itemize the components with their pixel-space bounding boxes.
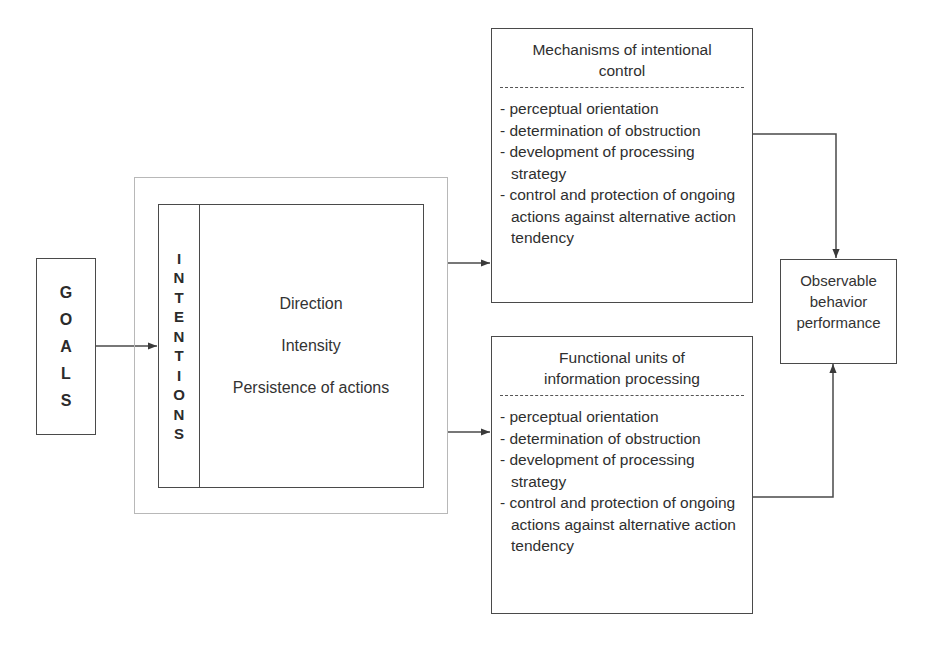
- intentions-letter: T: [174, 346, 183, 366]
- attribute-direction: Direction: [279, 294, 342, 314]
- list-item: - determination of obstruction: [500, 428, 746, 450]
- mechanisms-title-line: control: [500, 60, 744, 81]
- intentions-letter: I: [177, 366, 181, 386]
- dashed-divider: [500, 395, 744, 396]
- intentions-label-column: I N T E N T I O N S: [158, 204, 200, 488]
- list-item: - control and protection of ongoing acti…: [500, 492, 746, 557]
- list-item: - determination of obstruction: [500, 120, 746, 142]
- list-item: - perceptual orientation: [500, 406, 746, 428]
- outcome-title-line: behavior: [781, 291, 896, 312]
- list-item: - development of processing strategy: [500, 141, 746, 184]
- intentions-attributes: Direction Intensity Persistence of actio…: [199, 204, 423, 487]
- functional-units-title-line: Functional units of: [500, 347, 744, 368]
- functional-units-list: - perceptual orientation - determination…: [492, 402, 752, 557]
- functional-units-title-line: information processing: [500, 368, 744, 389]
- goals-letter: S: [61, 387, 72, 414]
- mechanisms-title-line: Mechanisms of intentional: [500, 39, 744, 60]
- list-item: - perceptual orientation: [500, 98, 746, 120]
- intentions-letter: I: [177, 249, 181, 269]
- outcome-box: Observable behavior performance: [780, 259, 897, 364]
- intentions-letter: T: [174, 288, 183, 308]
- goals-letter: G: [60, 279, 72, 306]
- attribute-intensity: Intensity: [281, 336, 341, 356]
- goals-letter: L: [61, 360, 71, 387]
- intentions-letter: N: [174, 327, 185, 347]
- intentions-letter: N: [174, 268, 185, 288]
- dashed-divider: [500, 87, 744, 88]
- intentions-letter: E: [174, 307, 184, 327]
- outcome-title-line: performance: [781, 312, 896, 333]
- intentions-letter: O: [173, 385, 185, 405]
- functional-units-box: Functional units of information processi…: [491, 336, 753, 614]
- outcome-title: Observable behavior performance: [781, 260, 896, 333]
- mechanisms-box: Mechanisms of intentional control - perc…: [491, 28, 753, 303]
- attribute-persistence: Persistence of actions: [233, 378, 390, 398]
- goals-box: G O A L S: [36, 258, 96, 435]
- list-item: - control and protection of ongoing acti…: [500, 184, 746, 249]
- goals-letter: A: [60, 333, 72, 360]
- list-item: - development of processing strategy: [500, 449, 746, 492]
- arrow-mechanisms-to-outcome: [752, 134, 836, 258]
- intentions-letter: N: [174, 405, 185, 425]
- outcome-title-line: Observable: [781, 270, 896, 291]
- arrow-functional-units-to-outcome: [752, 364, 833, 497]
- goals-letter: O: [60, 306, 72, 333]
- intentions-letter: S: [174, 424, 184, 444]
- functional-units-title: Functional units of information processi…: [492, 337, 752, 389]
- mechanisms-list: - perceptual orientation - determination…: [492, 94, 752, 249]
- mechanisms-title: Mechanisms of intentional control: [492, 29, 752, 81]
